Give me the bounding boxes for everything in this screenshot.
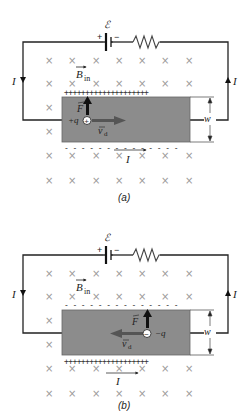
svg-text:×: × (45, 126, 53, 137)
svg-text:×: × (45, 388, 53, 399)
battery-minus: − (114, 245, 119, 255)
svg-text:×: × (45, 339, 53, 350)
current-label-right: I (232, 75, 238, 87)
emf-label: ℰ (104, 232, 111, 243)
svg-text:×: × (45, 175, 53, 186)
svg-text:×: × (185, 291, 193, 302)
battery-plus: + (97, 245, 102, 255)
battery-icon (103, 246, 113, 264)
svg-text:d: d (104, 130, 108, 138)
svg-text:×: × (45, 315, 53, 326)
current-label-bottom: I (115, 375, 121, 387)
hall-effect-diagram: + − ℰ I I × × × × × × × × × × × × × × × … (0, 0, 250, 413)
current-arrow-left (20, 290, 26, 296)
svg-text:×: × (115, 55, 123, 66)
emf-label: ℰ (104, 19, 111, 30)
current-label-right: I (232, 288, 238, 300)
svg-text:×: × (138, 268, 146, 279)
svg-text:B: B (76, 281, 83, 293)
battery-minus: − (114, 32, 119, 42)
battery-plus: + (97, 32, 102, 42)
svg-text:×: × (68, 268, 76, 279)
bottom-edge-charges: ++++++++++++++++++++ (64, 357, 149, 366)
field-label: B in (76, 67, 90, 83)
svg-text:×: × (185, 175, 193, 186)
svg-text:×: × (45, 363, 53, 374)
svg-text:×: × (92, 55, 100, 66)
force-label: F (131, 316, 139, 327)
charge-sign: − (144, 330, 149, 339)
svg-text:v: v (122, 338, 127, 349)
field-label: B in (76, 280, 90, 296)
svg-text:×: × (138, 55, 146, 66)
svg-text:×: × (92, 175, 100, 186)
svg-text:×: × (185, 150, 193, 161)
current-label-left: I (11, 288, 17, 300)
svg-text:×: × (45, 291, 53, 302)
svg-text:×: × (185, 388, 193, 399)
width-label: w (204, 326, 211, 337)
panel-b: + − ℰ I I × × × × × × × × × × × × × × × … (11, 232, 238, 411)
resistor-icon (133, 36, 160, 48)
svg-text:×: × (185, 78, 193, 89)
current-label-left: I (11, 75, 17, 87)
svg-text:B: B (76, 68, 83, 80)
width-label: w (204, 113, 211, 124)
svg-text:×: × (161, 175, 169, 186)
svg-text:×: × (138, 388, 146, 399)
svg-text:×: × (92, 388, 100, 399)
current-arrow-right (225, 77, 231, 83)
svg-text:×: × (161, 78, 169, 89)
current-arrow-right (225, 290, 231, 296)
charge-sign: + (84, 117, 89, 126)
svg-text:×: × (138, 175, 146, 186)
current-label-bottom: I (125, 153, 131, 165)
charge-label: −q (155, 328, 166, 338)
svg-text:×: × (185, 268, 193, 279)
panel-a: + − ℰ I I × × × × × × × × × × × × × × × … (11, 19, 238, 203)
force-label: F (76, 103, 84, 114)
bottom-edge-charges: - - - - - - - - - - - - - - (64, 144, 178, 153)
svg-text:in: in (84, 74, 90, 83)
svg-text:×: × (185, 55, 193, 66)
svg-text:×: × (92, 268, 100, 279)
svg-text:×: × (185, 363, 193, 374)
svg-text:in: in (84, 287, 90, 296)
battery-icon (103, 33, 113, 51)
svg-text:×: × (115, 175, 123, 186)
svg-text:×: × (68, 388, 76, 399)
svg-text:×: × (45, 268, 53, 279)
top-edge-charges: - - - - - - - - - - - - - - (64, 301, 178, 310)
svg-text:d: d (128, 343, 132, 351)
svg-text:×: × (68, 55, 76, 66)
svg-text:×: × (161, 55, 169, 66)
svg-text:×: × (161, 268, 169, 279)
caption-a: (a) (118, 192, 130, 203)
current-arrow-left (20, 77, 26, 83)
svg-text:v: v (98, 125, 103, 136)
svg-text:×: × (45, 150, 53, 161)
caption-b: (b) (118, 400, 130, 411)
svg-text:×: × (161, 363, 169, 374)
charge-label: +q (68, 115, 79, 125)
resistor-icon (133, 249, 160, 261)
svg-text:×: × (115, 268, 123, 279)
svg-text:×: × (161, 388, 169, 399)
top-edge-charges: ++++++++++++++++++++ (64, 88, 149, 97)
svg-text:×: × (115, 388, 123, 399)
svg-text:×: × (68, 175, 76, 186)
svg-text:×: × (45, 55, 53, 66)
svg-text:×: × (45, 102, 53, 113)
svg-text:×: × (45, 78, 53, 89)
